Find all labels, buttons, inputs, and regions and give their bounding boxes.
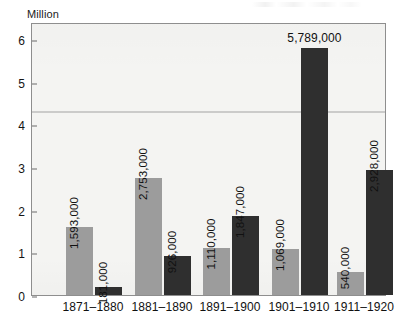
y-axis-tick-mark [32,41,37,42]
bar-value-label: 1,847,000 [234,186,246,238]
bar-value-label: 1,110,000 [205,218,217,269]
y-axis-tick-mark [32,254,37,255]
bar-dark-4: 2,928,000 [366,170,393,295]
y-axis-tick-label: 1 [18,247,25,261]
scan-line [32,111,385,113]
bar-light-4: 540,000 [337,272,364,295]
y-axis-tick-mark [32,83,37,84]
y-axis-tick-mark [32,126,37,127]
bar-value-label: 2,928,000 [368,140,380,192]
bar-light-1: 2,753,000 [135,178,162,295]
x-axis-category-label: 1901–1910 [269,300,330,314]
bar-value-label: 1,593,000 [68,197,80,249]
x-axis-category-label: 1871–1880 [63,300,124,314]
scan-artifact [252,2,362,7]
bar-light-2: 1,110,000 [203,248,230,295]
y-axis-tick-label: 3 [18,162,25,176]
bar-chart-figure: Million 01234561,593,000181,0002,753,000… [0,0,395,328]
bar-value-label: 1,069,000 [274,219,286,271]
x-axis-category-label: 1911–1920 [334,300,394,314]
y-axis-tick-mark [32,211,37,212]
y-axis-tick-label: 2 [18,205,25,219]
x-axis-category-label: 1881–1890 [132,300,193,314]
y-axis-tick-label: 5 [18,77,25,91]
bar-dark-1: 926,000 [164,256,191,295]
y-axis-unit-label: Million [27,8,59,20]
y-axis-tick-mark [32,169,37,170]
y-axis-tick-mark [32,297,37,298]
bar-value-label: 5,789,000 [287,31,341,45]
y-axis-tick-label: 6 [18,34,25,48]
bar-value-label: 2,753,000 [137,148,149,200]
bar-dark-3: 5,789,000 [301,48,328,295]
y-axis-tick-label: 4 [18,119,25,133]
x-axis-category-label: 1891–1900 [200,300,261,314]
plot-area: 01234561,593,000181,0002,753,000926,0001… [31,23,386,296]
bar-value-label: 926,000 [166,230,178,272]
bar-dark-0: 181,000 [95,287,122,295]
y-axis-tick-label: 0 [18,290,25,304]
bar-dark-2: 1,847,000 [232,216,259,295]
bar-value-label: 540,000 [339,247,351,289]
bar-light-3: 1,069,000 [272,249,299,295]
bar-light-0: 1,593,000 [66,227,93,295]
bar-value-label: 181,000 [97,262,109,304]
